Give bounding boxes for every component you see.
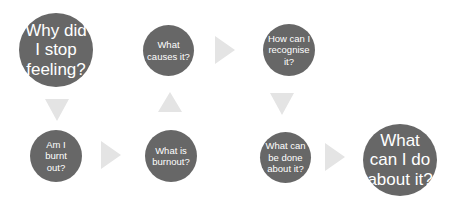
node-what-is-burnout: What is burnout? <box>145 130 197 182</box>
arrow-down-icon <box>270 93 294 115</box>
arrow-right-icon <box>215 36 235 64</box>
node-label: How can I recognise it? <box>268 33 310 67</box>
node-label: Am I burnt out? <box>45 139 67 173</box>
node-label: What can I do about it? <box>367 131 432 190</box>
arrow-down-icon <box>45 99 69 121</box>
node-why-did-i-stop-feeling: Why did I stop feeling? <box>19 13 93 87</box>
node-label: What can be done about it? <box>265 140 305 174</box>
node-what-can-be-done-about-it: What can be done about it? <box>260 132 311 183</box>
node-am-i-burnt-out: Am I burnt out? <box>30 130 82 182</box>
node-label: Why did I stop feeling? <box>25 21 86 80</box>
node-what-causes-it: What causes it? <box>143 25 194 76</box>
node-label: What is burnout? <box>152 145 190 168</box>
arrow-right-icon <box>101 141 121 169</box>
node-what-can-i-do-about-it: What can I do about it? <box>363 124 437 196</box>
arrow-up-icon <box>158 92 182 112</box>
arrow-right-icon <box>325 143 345 171</box>
node-label: What causes it? <box>147 39 190 62</box>
node-how-can-i-recognise-it: How can I recognise it? <box>263 24 315 76</box>
